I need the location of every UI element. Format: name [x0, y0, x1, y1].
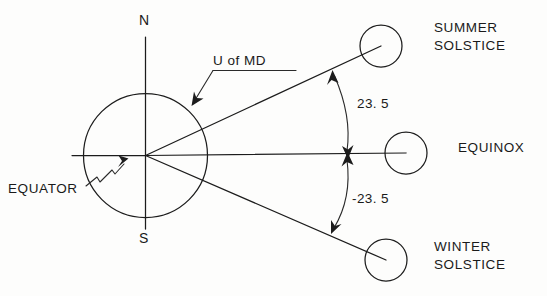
lower-angle-label: -23. 5 — [352, 191, 389, 206]
observer-leader-arrowhead — [192, 92, 204, 107]
summer-solstice-label-line2: SOLSTICE — [434, 38, 506, 53]
upper-angle-arc — [335, 76, 349, 151]
equator-label: EQUATOR — [8, 181, 78, 196]
winter-solstice-label-line2: SOLSTICE — [434, 257, 506, 272]
observer-location-label: U of MD — [213, 53, 266, 68]
upper-angle-label: 23. 5 — [357, 96, 389, 111]
north-pole-label: N — [139, 13, 149, 28]
equator-leader-zigzag — [86, 164, 124, 186]
summer-solstice-label-line1: SUMMER — [434, 20, 498, 35]
lower-angle-arc — [334, 160, 348, 228]
equinox-ray — [146, 153, 407, 156]
lower-angle-arrow-bottom — [331, 220, 342, 234]
observer-leader-line — [195, 71, 213, 101]
solar-declination-diagram: N S EQUATOR U of MD SUMMER SOLSTICE EQUI… — [0, 0, 547, 296]
equinox-label: EQUINOX — [458, 140, 524, 155]
winter-solstice-label-line1: WINTER — [434, 239, 491, 254]
south-pole-label: S — [139, 231, 148, 246]
winter-solstice-ray — [146, 156, 387, 261]
